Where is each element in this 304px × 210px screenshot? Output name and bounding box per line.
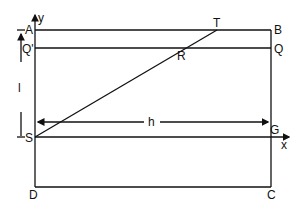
label-x-axis: x <box>281 138 287 152</box>
label-q-prime: Q' <box>22 42 34 56</box>
label-l: l <box>18 81 21 95</box>
label-g: G <box>270 123 279 137</box>
label-a: A <box>25 23 33 37</box>
label-b: B <box>274 23 282 37</box>
label-q: Q <box>274 42 283 56</box>
line-st <box>35 30 217 137</box>
label-y-axis: y <box>38 11 44 25</box>
label-t: T <box>213 16 221 30</box>
label-h: h <box>148 115 155 129</box>
label-d: D <box>29 188 38 202</box>
label-r: R <box>177 49 186 63</box>
label-s: S <box>25 131 33 145</box>
diagram: y x A B Q' Q T R S G D C l h <box>0 0 304 210</box>
label-c: C <box>267 188 276 202</box>
